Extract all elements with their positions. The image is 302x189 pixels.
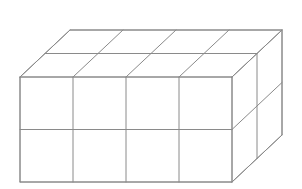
face-fills — [20, 30, 282, 182]
cube-block-svg — [0, 0, 302, 189]
cube-block-figure — [0, 0, 302, 189]
